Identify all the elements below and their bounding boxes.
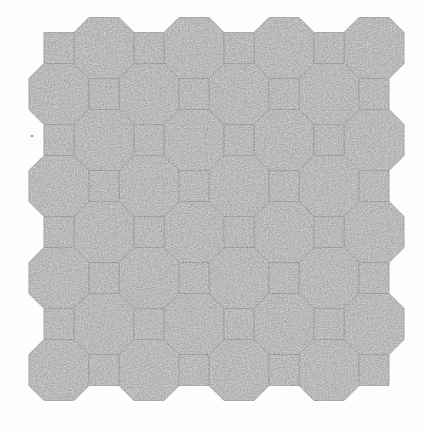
square-tile [89, 171, 119, 202]
scanned-pattern-page [0, 0, 423, 428]
octagon-tile [299, 340, 359, 401]
square-tile [269, 263, 299, 294]
tile-group [29, 18, 404, 401]
square-tile [134, 217, 164, 248]
octagon-tile [254, 18, 314, 79]
square-tile [359, 263, 389, 294]
octagon-tile [254, 294, 314, 355]
square-tile [269, 171, 299, 202]
octagon-tile [299, 248, 359, 309]
square-tile [314, 217, 344, 248]
octagon-tile [209, 64, 269, 125]
square-tile [359, 79, 389, 110]
square-tile [44, 217, 74, 248]
square-tile [134, 309, 164, 340]
octagon-tile [74, 294, 134, 355]
square-tile [314, 309, 344, 340]
octagon-tile [209, 156, 269, 217]
octagon-tile [344, 18, 404, 79]
octagon-tile [29, 64, 89, 125]
octagon-tile [74, 18, 134, 79]
octagon-tile [299, 64, 359, 125]
octagon-tile [164, 202, 224, 263]
square-tile [269, 355, 299, 386]
octagon-tile [209, 248, 269, 309]
square-tile [359, 171, 389, 202]
octagon-tile [209, 340, 269, 401]
square-tile [44, 33, 74, 64]
octagon-tile [119, 248, 179, 309]
octagon-tile [74, 202, 134, 263]
square-tile [224, 33, 254, 64]
octagon-tile [344, 294, 404, 355]
square-tile [179, 79, 209, 110]
octagon-tile [29, 156, 89, 217]
octagon-tile [299, 156, 359, 217]
square-tile [224, 217, 254, 248]
octagon-tile [29, 340, 89, 401]
square-tile [179, 263, 209, 294]
octagon-tile [344, 110, 404, 171]
square-tile [269, 79, 299, 110]
octagon-tile [119, 64, 179, 125]
square-tile [89, 263, 119, 294]
octagon-tile [254, 202, 314, 263]
octagon-tile [119, 340, 179, 401]
square-tile [314, 33, 344, 64]
square-tile [44, 309, 74, 340]
square-tile [224, 125, 254, 156]
square-tile [89, 79, 119, 110]
square-tile [134, 33, 164, 64]
octagon-tile [164, 110, 224, 171]
octagon-tile [344, 202, 404, 263]
octagon-tile [74, 110, 134, 171]
square-tile [359, 355, 389, 386]
octagon-tile [164, 18, 224, 79]
octagon-tile [119, 156, 179, 217]
octagon-tile [29, 248, 89, 309]
square-tile [179, 355, 209, 386]
octagon-tile [164, 294, 224, 355]
square-tile [44, 125, 74, 156]
square-tile [89, 355, 119, 386]
square-tile [179, 171, 209, 202]
square-tile [134, 125, 164, 156]
octagon-tile [254, 110, 314, 171]
octagon-square-tiling [0, 0, 423, 428]
dust-speck [31, 135, 34, 138]
square-tile [224, 309, 254, 340]
square-tile [314, 125, 344, 156]
